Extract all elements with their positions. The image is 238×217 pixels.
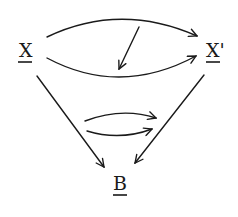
arrow-x-to-b xyxy=(37,76,104,167)
node-b-label: B xyxy=(113,172,127,194)
middle-arrow-upper xyxy=(85,113,156,121)
two-cell-arrow xyxy=(119,27,139,69)
arrow-xprime-to-b xyxy=(135,75,204,163)
middle-arrow-lower xyxy=(87,129,152,136)
commutative-diagram: X X' B xyxy=(0,0,238,217)
node-x-prime-label: X' xyxy=(206,39,225,61)
arrow-x-to-xprime-upper xyxy=(47,19,197,37)
node-x: X xyxy=(18,39,33,62)
node-x-prime: X' xyxy=(206,39,225,62)
arrow-x-to-xprime-lower xyxy=(47,56,196,77)
node-x-label: X xyxy=(19,39,33,61)
node-b: B xyxy=(113,172,127,195)
